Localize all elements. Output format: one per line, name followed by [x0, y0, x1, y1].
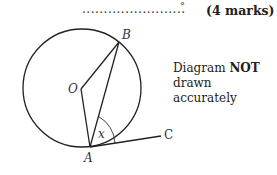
note-bold: NOT	[229, 61, 259, 75]
note-prefix: Diagram	[173, 61, 229, 75]
note-line2: drawn accurately	[173, 76, 237, 105]
radius-OA	[81, 89, 90, 147]
label-C: C	[164, 128, 173, 142]
label-A: A	[83, 151, 93, 165]
radius-OB	[81, 42, 119, 89]
label-x: x	[98, 127, 105, 141]
label-O: O	[68, 82, 78, 96]
diagram-note: Diagram NOT drawn accurately	[173, 61, 277, 106]
label-B: B	[121, 28, 131, 42]
